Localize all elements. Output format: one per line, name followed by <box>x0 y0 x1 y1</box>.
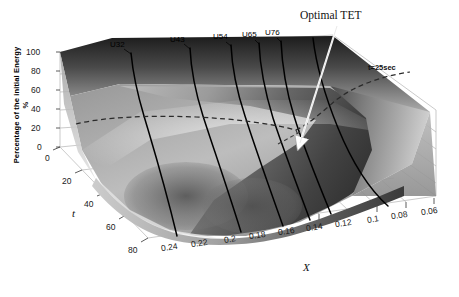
t-tick-40: 40 <box>84 200 93 209</box>
contour-label-u32: U32 <box>110 41 125 49</box>
x-tick-0-1: 0.1 <box>366 214 379 224</box>
surface-plot-canvas <box>0 0 459 297</box>
y-tick-80: 80 <box>31 67 40 76</box>
contour-label-u54: U54 <box>213 33 228 41</box>
time-isoline-label: t=25sec <box>368 63 396 72</box>
y-tick-20: 20 <box>31 124 40 133</box>
contour-label-u76: U76 <box>265 29 280 37</box>
y-tick-40: 40 <box>31 105 40 114</box>
y-tick-0: 0 <box>37 143 42 152</box>
x-axis-title: X <box>303 262 310 273</box>
optimal-tet-label: Optimal TET <box>300 9 361 21</box>
t-tick-60: 60 <box>106 223 115 232</box>
t-tick-20: 20 <box>62 177 71 186</box>
y-axis-ticks <box>56 52 60 147</box>
figure-panel: Percentage of the initial Energy % 100 8… <box>0 0 459 297</box>
y-axis-title: Percentage of the initial Energy % <box>12 45 30 165</box>
contour-label-u43: U43 <box>170 36 185 44</box>
contour-label-u65: U65 <box>242 31 257 39</box>
t-tick-80: 80 <box>128 246 137 255</box>
t-axis-title: t <box>72 208 75 219</box>
y-tick-100: 100 <box>26 48 40 57</box>
y-tick-60: 60 <box>31 86 40 95</box>
t-tick-0: 0 <box>45 154 50 163</box>
x-tick-0-2: 0.2 <box>223 234 236 244</box>
